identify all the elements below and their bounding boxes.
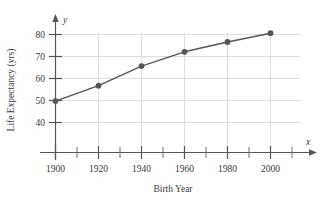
x-tick-label-1960: 1960 <box>175 164 194 174</box>
data-line-life-expectancy <box>56 33 271 101</box>
y-axis <box>52 14 58 160</box>
y-tick-label-70: 70 <box>36 52 46 62</box>
y-tick-label-60: 60 <box>36 74 46 84</box>
chart-canvas: 80 70 60 50 40 1900 1920 1940 1960 1980 … <box>0 0 333 202</box>
y-axis-title: Life Expectancy (yrs) <box>6 49 17 132</box>
x-tick-label-1900: 1900 <box>46 164 65 174</box>
x-axis-title: Birth Year <box>153 184 193 194</box>
x-axis <box>40 149 317 155</box>
x-tick-label-2000: 2000 <box>261 164 280 174</box>
x-axis-tick-labels: 1900 1920 1940 1960 1980 2000 <box>46 164 280 174</box>
data-point <box>53 98 59 104</box>
x-tick-label-1920: 1920 <box>89 164 108 174</box>
grid-horizontal <box>48 35 300 123</box>
y-axis-variable-label: y <box>62 15 68 25</box>
x-tick-label-1940: 1940 <box>132 164 151 174</box>
y-tick-label-80: 80 <box>36 30 46 40</box>
life-expectancy-chart-figure: 80 70 60 50 40 1900 1920 1940 1960 1980 … <box>0 0 333 202</box>
data-point <box>96 83 102 89</box>
x-axis-variable-label: x <box>305 137 311 147</box>
data-point <box>268 30 274 36</box>
y-tick-label-50: 50 <box>36 96 46 106</box>
data-point-markers <box>53 30 274 104</box>
x-tick-label-1980: 1980 <box>218 164 237 174</box>
data-point <box>139 63 145 69</box>
data-point <box>182 49 188 55</box>
y-axis-tick-labels: 80 70 60 50 40 <box>36 30 46 128</box>
data-point <box>225 39 231 45</box>
y-tick-label-40: 40 <box>36 118 46 128</box>
